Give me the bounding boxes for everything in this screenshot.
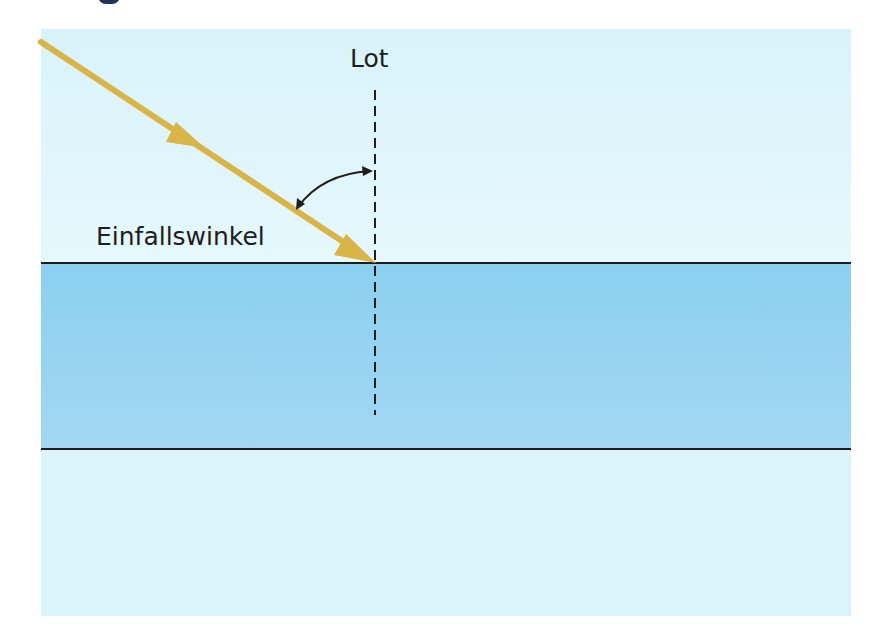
angle-arc (296, 166, 373, 210)
angle-label: Einfallswinkel (96, 224, 265, 249)
normal-label: Lot (350, 46, 389, 71)
diagram-overlay (0, 0, 887, 639)
arc-arrowhead-icon (362, 166, 373, 176)
